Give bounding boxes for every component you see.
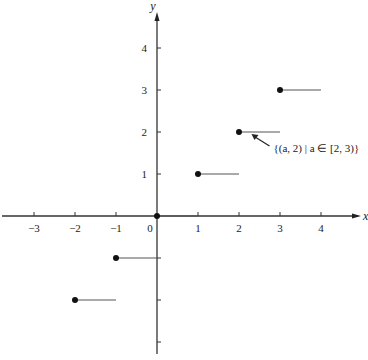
y-tick-label: 4 [142, 42, 148, 54]
y-axis-label: y [149, 0, 156, 13]
x-tick-label: −1 [110, 222, 122, 234]
annotation-text: {(a, 2) | a ∈ [2, 3)} [274, 142, 360, 155]
closed-endpoint-dot [113, 255, 119, 261]
x-tick-label: 2 [236, 222, 242, 234]
y-axis-arrow-icon [155, 12, 160, 21]
y-tick-label: 2 [142, 126, 148, 138]
step-segments [72, 87, 321, 303]
x-axis-label: x [362, 209, 368, 223]
y-tick-label: 3 [142, 84, 148, 96]
x-tick-label: 3 [277, 222, 283, 234]
x-tick-label: 0 [147, 222, 153, 234]
x-tick-label: −2 [69, 222, 81, 234]
closed-endpoint-dot [277, 87, 283, 93]
step-function-chart: xy−3−2−1012344321 {(a, 2) | a ∈ [2, 3)} [0, 0, 368, 360]
x-axis-arrow-icon [352, 214, 361, 219]
x-tick-label: 1 [195, 222, 201, 234]
axes: xy−3−2−1012344321 [2, 0, 368, 354]
closed-endpoint-dot [72, 297, 78, 303]
closed-endpoint-dot [236, 129, 242, 135]
x-tick-label: −3 [28, 222, 40, 234]
y-tick-label: 1 [142, 168, 148, 180]
closed-endpoint-dot [154, 213, 160, 219]
closed-endpoint-dot [195, 171, 201, 177]
annotations: {(a, 2) | a ∈ [2, 3)} [252, 134, 360, 155]
x-tick-label: 4 [318, 222, 324, 234]
